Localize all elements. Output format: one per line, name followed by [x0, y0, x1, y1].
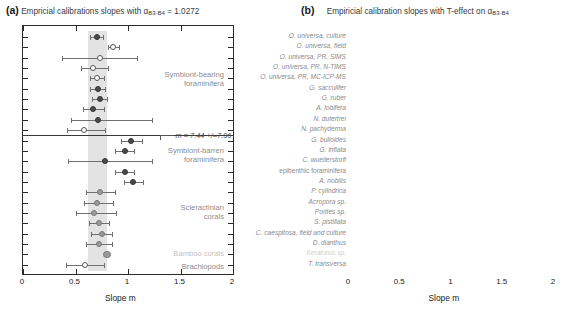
y-tick-a-10: [228, 141, 233, 142]
x-tick-label-b-3: 1.5: [494, 277, 510, 286]
error-bar-cap-high: [103, 35, 104, 40]
error-bar-cap-high: [107, 97, 108, 102]
data-point-marker[interactable]: [82, 262, 88, 268]
error-bar-cap-low: [115, 170, 116, 175]
x-tick-a-2: [128, 269, 129, 274]
data-point-marker[interactable]: [94, 75, 100, 81]
data-point-marker[interactable]: [102, 158, 108, 164]
y-tick-a-5: [23, 89, 28, 90]
y-tick-a-17: [23, 213, 28, 214]
y-tick-a-4: [228, 78, 233, 79]
y-tick-a-14: [23, 182, 28, 183]
data-point-marker[interactable]: [122, 148, 128, 154]
y-tick-a-11: [228, 151, 233, 152]
y-tick-a-15: [23, 192, 28, 193]
error-bar: [71, 120, 152, 121]
y-tick-a-4: [23, 78, 28, 79]
data-point-marker[interactable]: [94, 34, 100, 40]
error-bar: [68, 161, 152, 162]
data-point-marker[interactable]: [130, 179, 136, 185]
error-bar-cap-high: [105, 128, 106, 133]
x-tick-a-2: [128, 26, 129, 31]
error-bar-cap-low: [124, 180, 125, 185]
error-bar-cap-low: [89, 221, 90, 226]
error-bar-cap-low: [83, 107, 84, 112]
y-tick-a-19: [23, 234, 28, 235]
error-bar-cap-low: [66, 263, 67, 268]
y-tick-a-1: [23, 47, 28, 48]
error-bar-cap-low: [86, 190, 87, 195]
x-tick-label-b-0: 0: [340, 277, 356, 286]
error-bar-cap-low: [84, 201, 85, 206]
error-bar-cap-low: [91, 232, 92, 237]
error-bar-cap-high: [104, 107, 105, 112]
annotation-error-cap-a: [160, 135, 161, 140]
data-point-marker[interactable]: [99, 231, 105, 237]
data-point-marker[interactable]: [95, 117, 101, 123]
error-bar-cap-low: [115, 149, 116, 154]
x-tick-label-a-0: 0: [14, 277, 30, 286]
group-label: Symbiont-bearingforaminifera: [164, 70, 224, 88]
alpha-subscript-a: B3-B4: [148, 10, 165, 16]
y-tick-a-21: [228, 254, 233, 255]
y-tick-a-1: [228, 47, 233, 48]
error-bar-cap-low: [62, 56, 63, 61]
data-point-marker[interactable]: [110, 44, 116, 50]
y-tick-a-0: [228, 37, 233, 38]
data-point-marker[interactable]: [81, 127, 87, 133]
data-point-marker[interactable]: [97, 189, 103, 195]
data-point-marker[interactable]: [128, 138, 134, 144]
y-tick-a-14: [228, 182, 233, 183]
y-tick-a-6: [23, 99, 28, 100]
error-bar-cap-high: [104, 76, 105, 81]
y-tick-a-22: [228, 265, 233, 266]
x-tick-a-3: [181, 26, 182, 31]
error-bar-cap-low: [86, 242, 87, 247]
error-bar-cap-high: [104, 263, 105, 268]
x-tick-label-b-1: 0.5: [391, 277, 407, 286]
y-tick-a-10: [23, 141, 28, 142]
error-bar-cap-low: [71, 118, 72, 123]
data-point-marker[interactable]: [103, 251, 111, 259]
y-tick-a-12: [23, 161, 28, 162]
data-point-marker[interactable]: [94, 200, 100, 206]
error-bar-cap-low: [121, 139, 122, 144]
x-axis-title-a: Slope m: [105, 293, 136, 303]
error-bar-cap-high: [112, 232, 113, 237]
y-tick-a-16: [228, 203, 233, 204]
y-tick-a-15: [228, 192, 233, 193]
error-bar-cap-high: [134, 149, 135, 154]
alpha-subscript-b: B3-B4: [492, 10, 509, 16]
x-tick-label-a-2: 1: [119, 277, 135, 286]
error-bar-cap-high: [152, 159, 153, 164]
y-tick-a-20: [23, 244, 28, 245]
data-point-marker[interactable]: [96, 241, 102, 247]
error-bar-cap-low: [90, 87, 91, 92]
y-tick-a-22: [23, 265, 28, 266]
group-label: Scleractiniancorals: [181, 203, 224, 221]
data-point-marker[interactable]: [96, 220, 102, 226]
error-bar-cap-high: [108, 66, 109, 71]
x-tick-label-b-4: 2: [545, 277, 561, 286]
error-bar-cap-high: [116, 211, 117, 216]
panel-a-tag: (a): [6, 4, 19, 16]
y-tick-a-18: [228, 223, 233, 224]
y-tick-a-3: [23, 68, 28, 69]
y-tick-a-11: [23, 151, 28, 152]
x-tick-a-4: [233, 269, 234, 274]
error-bar-cap-high: [115, 190, 116, 195]
data-point-marker[interactable]: [95, 86, 101, 92]
y-tick-a-18: [23, 223, 28, 224]
error-bar-cap-low: [90, 35, 91, 40]
error-bar-cap-high: [113, 201, 114, 206]
panel-a-title: (a) Empricial calibrations slopes with α…: [6, 4, 199, 16]
y-tick-a-21: [23, 254, 28, 255]
data-point-marker[interactable]: [97, 55, 103, 61]
y-tick-a-8: [228, 120, 233, 121]
error-bar-cap-high: [142, 139, 143, 144]
panel-b-title: (b) Empiricial calibration slopes with T…: [301, 4, 509, 16]
y-tick-a-2: [228, 58, 233, 59]
data-point-marker[interactable]: [97, 96, 103, 102]
y-tick-a-7: [228, 109, 233, 110]
data-point-marker[interactable]: [122, 169, 128, 175]
